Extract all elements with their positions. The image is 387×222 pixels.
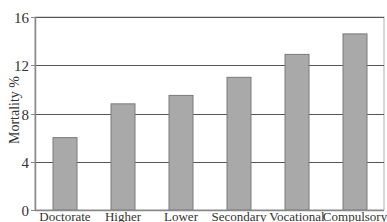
chart-canvas: 0481216DoctorateHigherLowerSecondaryVoca… [0, 0, 387, 222]
y-tick-label: 12 [14, 58, 29, 74]
y-axis-label: Mortality % [7, 75, 23, 145]
plot-frame [35, 17, 384, 210]
bar-secondary [227, 77, 251, 210]
bar-vocational [285, 54, 309, 210]
bar-compulsory [343, 34, 367, 210]
y-tick-label: 4 [22, 155, 30, 171]
bar-doctorate [53, 138, 77, 210]
y-tick-label: 16 [14, 10, 30, 26]
y-tick-label: 0 [22, 203, 30, 219]
bar-lower [169, 95, 193, 210]
bar-chart: 0481216DoctorateHigherLowerSecondaryVoca… [0, 0, 387, 222]
bar-higher [111, 104, 135, 210]
